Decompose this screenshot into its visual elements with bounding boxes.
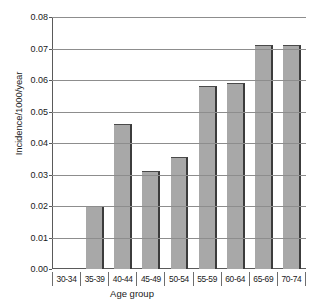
- gridline: [52, 175, 306, 176]
- y-axis-tick-label: 0.06: [30, 75, 48, 85]
- x-axis-tick-label: 65-69: [250, 272, 278, 286]
- y-axis-tick-mark: [49, 238, 52, 239]
- y-axis-tick-label: 0.07: [30, 44, 48, 54]
- y-axis-tick-label: 0.03: [30, 170, 48, 180]
- y-axis-title: Incidence/1000/year: [13, 44, 24, 184]
- y-axis-tick-mark: [49, 175, 52, 176]
- x-axis-title: Age group: [52, 288, 212, 299]
- y-axis-tick-mark: [49, 206, 52, 207]
- y-axis-tick-label: 0.04: [30, 138, 48, 148]
- x-axis-tick-label: 40-44: [109, 272, 137, 286]
- y-axis-tick-label: 0.08: [30, 12, 48, 22]
- x-axis-tick-label: 60-64: [222, 272, 250, 286]
- x-axis-tick-label: 35-39: [81, 272, 109, 286]
- plot-area: 0.080.070.060.050.040.030.020.010.00: [52, 17, 306, 269]
- gridline: [52, 143, 306, 144]
- x-axis-tick-label: 30-34: [52, 272, 81, 286]
- bar[interactable]: [142, 171, 160, 269]
- y-axis-tick-mark: [49, 80, 52, 81]
- x-axis-tick-label: 70-74: [278, 272, 306, 286]
- bar[interactable]: [283, 45, 301, 269]
- y-axis-tick-mark: [49, 143, 52, 144]
- bar[interactable]: [114, 124, 132, 269]
- bar-chart-figure: Incidence/1000/year 0.080.070.060.050.04…: [0, 0, 311, 303]
- y-axis-tick-mark: [49, 49, 52, 50]
- y-axis-tick-mark: [49, 17, 52, 18]
- gridline: [52, 49, 306, 50]
- x-axis-tick-label: 50-54: [165, 272, 193, 286]
- gridline: [52, 206, 306, 207]
- y-axis-tick-label: 0.00: [30, 264, 48, 274]
- gridline: [52, 238, 306, 239]
- bar[interactable]: [199, 86, 217, 269]
- y-axis-tick-label: 0.01: [30, 233, 48, 243]
- y-axis-tick-mark: [49, 269, 52, 270]
- y-axis-tick-label: 0.02: [30, 201, 48, 211]
- x-axis-tick-label: 55-59: [194, 272, 222, 286]
- y-axis-tick-label: 0.05: [30, 107, 48, 117]
- gridline: [52, 17, 306, 18]
- gridline: [52, 112, 306, 113]
- y-axis-tick-mark: [49, 112, 52, 113]
- gridline: [52, 80, 306, 81]
- bar[interactable]: [255, 45, 273, 269]
- x-axis-tick-cells: 30-3435-3940-4445-4950-5455-5960-6465-69…: [52, 272, 306, 286]
- x-axis-tick-label: 45-49: [137, 272, 165, 286]
